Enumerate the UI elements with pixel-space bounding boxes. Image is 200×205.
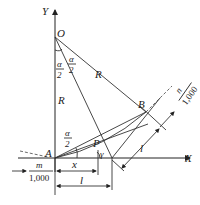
x-axis-label: X xyxy=(184,152,193,164)
dim-line-n xyxy=(160,112,174,127)
geometry-diagram: Y X O A B P R R α 2 α 2 α 2 γ x l l m 1,… xyxy=(0,0,200,205)
point-p-label: P xyxy=(92,137,100,149)
half-alpha-o-left-num: α xyxy=(57,59,62,69)
dashed-extension-left xyxy=(20,151,48,157)
point-b-label: B xyxy=(138,98,145,110)
r-slant-label: R xyxy=(94,68,102,80)
half-alpha-o-left-den: 2 xyxy=(57,70,62,80)
m-den: 1,000 xyxy=(29,173,50,183)
l-bottom-label: l xyxy=(80,174,83,186)
half-alpha-a-num: α xyxy=(65,128,70,138)
half-alpha-o-right-den: 2 xyxy=(69,65,74,75)
diagram-canvas: Y X O A B P R R α 2 α 2 α 2 γ x l l m 1,… xyxy=(0,0,200,205)
n-num: n xyxy=(173,85,184,95)
half-alpha-o-right-num: α xyxy=(69,54,74,64)
l-slant-label: l xyxy=(140,142,143,154)
half-alpha-a-den: 2 xyxy=(65,139,70,149)
dim-tick-bottom xyxy=(112,160,124,171)
point-a-label: A xyxy=(44,147,52,159)
m-num: m xyxy=(36,160,43,170)
n-den: 1,000 xyxy=(180,84,200,107)
gamma-label: γ xyxy=(100,149,104,159)
point-o-label: O xyxy=(57,27,65,39)
y-axis-label: Y xyxy=(42,5,50,17)
tangent-line xyxy=(112,98,160,158)
x-dim-label: x xyxy=(71,158,77,170)
r-vertical-label: R xyxy=(57,94,65,106)
